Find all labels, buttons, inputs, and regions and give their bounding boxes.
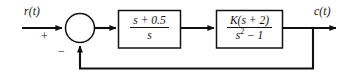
controller-denominator: s — [130, 28, 168, 41]
summing-junction-plus-sign: + — [41, 30, 48, 42]
plant-numerator: K(s + 2) — [227, 14, 272, 28]
output-label: c(t) — [314, 6, 331, 18]
input-label: r(t) — [24, 6, 40, 18]
block-diagram: r(t) + − s + 0.5 s K(s + 2) s2 − 1 c(t) — [0, 0, 361, 79]
plant-transfer-function: K(s + 2) s2 − 1 — [217, 14, 283, 42]
summing-junction-circle — [66, 14, 95, 43]
controller-transfer-function: s + 0.5 s — [119, 14, 181, 42]
plant-denominator-rest: − 1 — [244, 29, 263, 41]
plant-denominator: s2 − 1 — [227, 28, 272, 41]
controller-numerator: s + 0.5 — [130, 14, 168, 28]
summing-junction-minus-sign: − — [58, 45, 65, 57]
diagram-canvas — [0, 0, 361, 79]
